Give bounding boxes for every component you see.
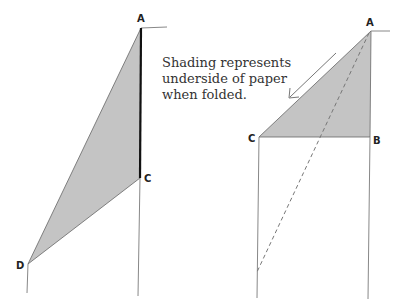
left-left-edge <box>27 264 28 293</box>
label-a-right: A <box>366 17 374 28</box>
label-c-left: C <box>144 173 151 184</box>
note-line-3: when folded. <box>162 87 247 102</box>
label-c-right: C <box>248 133 255 144</box>
label-a-left: A <box>137 13 145 24</box>
label-b-right: B <box>373 135 381 146</box>
note: Shading represents underside of paper wh… <box>162 55 291 102</box>
right-right-edge <box>368 137 370 299</box>
left-shaded-flap <box>28 28 141 264</box>
note-line-1: Shading represents <box>162 55 291 70</box>
left-right-edge <box>138 178 140 296</box>
left-top-edge <box>141 27 167 28</box>
label-d-left: D <box>16 260 24 271</box>
right-left-edge <box>257 137 259 298</box>
note-line-2: underside of paper <box>162 71 288 86</box>
folding-diagram: A C D Shading represents underside of pa… <box>0 0 402 307</box>
left-figure: A C D <box>16 13 167 296</box>
left-edge-ac-bold <box>140 28 141 178</box>
